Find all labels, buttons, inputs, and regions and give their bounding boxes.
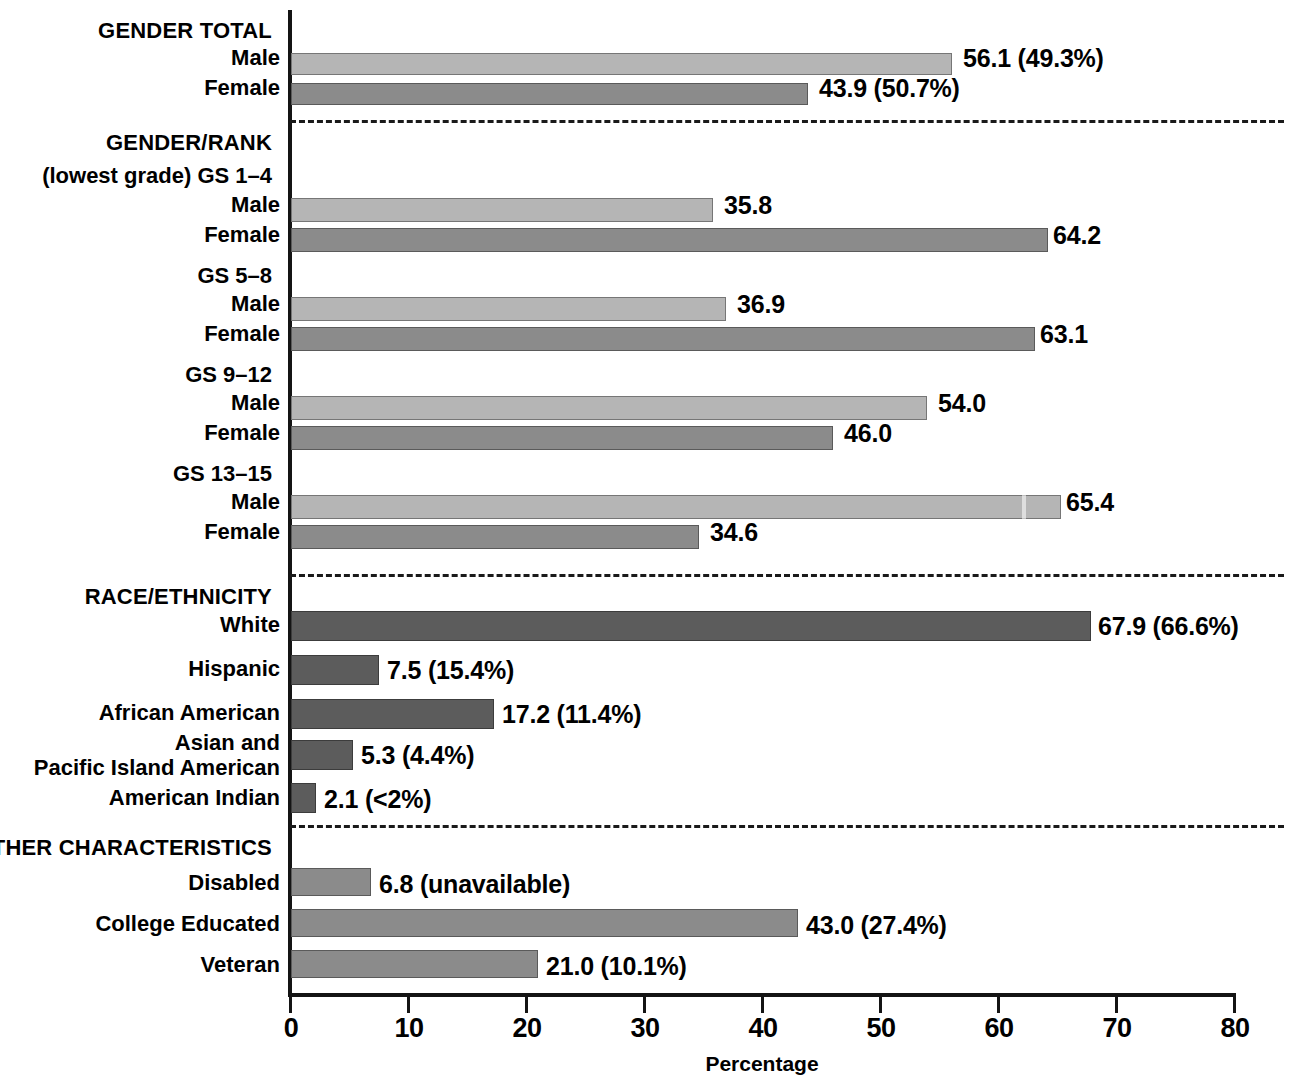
bar-gender-total-male (291, 53, 952, 75)
section-separator-1 (290, 120, 1284, 123)
x-tick-label-60: 60 (969, 1013, 1029, 1044)
row-label-gender-total-male: Male (0, 46, 288, 70)
bar-value-gender-total-male: 56.1 (49.3%) (963, 44, 1104, 73)
section-heading-other-characteristics: OTHER CHARACTERISTICS (0, 835, 280, 861)
bar-value-gs-5-8-female: 63.1 (1040, 320, 1088, 349)
bar-value-gender-total-female: 43.9 (50.7%) (819, 74, 960, 103)
bar-value-college-educated: 43.0 (27.4%) (806, 911, 947, 940)
x-tick-label-50: 50 (851, 1013, 911, 1044)
scan-artifact-streak (1022, 495, 1026, 519)
row-label-gs-5-8-female: Female (0, 322, 288, 346)
bar-gs-5-8-male (291, 297, 726, 321)
bar-value-gs-9-12-male: 54.0 (938, 389, 986, 418)
bar-gs-1-4-female (291, 228, 1048, 252)
bar-value-hispanic: 7.5 (15.4%) (387, 656, 514, 685)
row-label-asian-pacific-island-american-line1: Asian and (0, 731, 288, 755)
row-label-gs-1-4-male: Male (0, 193, 288, 217)
subgroup-label-gs-13-15: GS 13–15 (0, 461, 280, 487)
row-label-gs-13-15-male: Male (0, 490, 288, 514)
row-label-asian-pacific-island-american-line2: Pacific Island American (0, 756, 288, 780)
bar-value-disabled: 6.8 (unavailable) (379, 870, 570, 899)
x-tick-label-0: 0 (261, 1013, 321, 1044)
row-label-white: White (0, 613, 288, 637)
bar-gs-9-12-male (291, 396, 927, 420)
row-label-gs-5-8-male: Male (0, 292, 288, 316)
bar-value-gs-1-4-male: 35.8 (724, 191, 772, 220)
bar-value-african-american: 17.2 (11.4%) (502, 700, 641, 729)
row-label-gs-9-12-female: Female (0, 421, 288, 445)
x-tick-70 (1115, 997, 1118, 1013)
bar-college-educated (291, 909, 798, 937)
bar-value-asian-pacific-island-american: 5.3 (4.4%) (361, 741, 474, 770)
row-label-american-indian: American Indian (0, 786, 288, 810)
bar-asian-pacific-island-american (291, 740, 353, 770)
x-tick-20 (525, 997, 528, 1013)
x-tick-80 (1233, 997, 1236, 1013)
bar-african-american (291, 699, 494, 729)
bar-gs-13-15-female (291, 525, 699, 549)
row-label-gs-1-4-female: Female (0, 223, 288, 247)
section-heading-gender-total: GENDER TOTAL (0, 18, 280, 44)
bar-gs-9-12-female (291, 426, 833, 450)
bar-gs-1-4-male (291, 198, 713, 222)
x-tick-label-40: 40 (733, 1013, 793, 1044)
x-tick-60 (997, 997, 1000, 1013)
row-label-college-educated: College Educated (0, 912, 288, 936)
section-heading-gender-rank: GENDER/RANK (0, 130, 280, 156)
x-tick-0 (289, 997, 292, 1013)
bar-value-veteran: 21.0 (10.1%) (546, 952, 687, 981)
row-label-african-american: African American (0, 701, 288, 725)
x-tick-label-20: 20 (497, 1013, 557, 1044)
bar-value-gs-13-15-male: 65.4 (1066, 488, 1114, 517)
bar-value-american-indian: 2.1 (<2%) (324, 785, 431, 814)
row-label-gs-13-15-female: Female (0, 520, 288, 544)
row-label-veteran: Veteran (0, 953, 288, 977)
x-tick-10 (407, 997, 410, 1013)
bar-disabled (291, 868, 371, 896)
row-label-disabled: Disabled (0, 871, 288, 895)
x-tick-label-80: 80 (1205, 1013, 1265, 1044)
bar-gs-13-15-male (291, 495, 1061, 519)
section-heading-race-ethnicity: RACE/ETHNICITY (0, 584, 280, 610)
bar-value-gs-1-4-female: 64.2 (1053, 221, 1101, 250)
bar-value-gs-13-15-female: 34.6 (710, 518, 758, 547)
x-tick-40 (761, 997, 764, 1013)
bar-hispanic (291, 655, 379, 685)
x-tick-label-70: 70 (1087, 1013, 1147, 1044)
section-separator-3 (290, 825, 1284, 828)
x-tick-label-30: 30 (615, 1013, 675, 1044)
subgroup-label-gs-5-8: GS 5–8 (0, 263, 280, 289)
section-separator-2 (290, 574, 1284, 577)
x-axis-title: Percentage (288, 1052, 1236, 1076)
bar-gender-total-female (291, 83, 808, 105)
bar-value-gs-9-12-female: 46.0 (844, 419, 892, 448)
bar-value-white: 67.9 (66.6%) (1098, 612, 1239, 641)
x-tick-label-10: 10 (379, 1013, 439, 1044)
row-label-gender-total-female: Female (0, 76, 288, 100)
bar-veteran (291, 950, 538, 978)
row-label-gs-9-12-male: Male (0, 391, 288, 415)
x-tick-50 (879, 997, 882, 1013)
bar-value-gs-5-8-male: 36.9 (737, 290, 785, 319)
bar-white (291, 611, 1091, 641)
bar-american-indian (291, 783, 316, 813)
subgroup-label-gs-1-4: (lowest grade) GS 1–4 (0, 163, 280, 189)
bar-gs-5-8-female (291, 327, 1035, 351)
x-tick-30 (643, 997, 646, 1013)
bar-chart: 0 10 20 30 40 50 60 70 80 Percentage GEN… (0, 0, 1292, 1089)
row-label-hispanic: Hispanic (0, 657, 288, 681)
subgroup-label-gs-9-12: GS 9–12 (0, 362, 280, 388)
